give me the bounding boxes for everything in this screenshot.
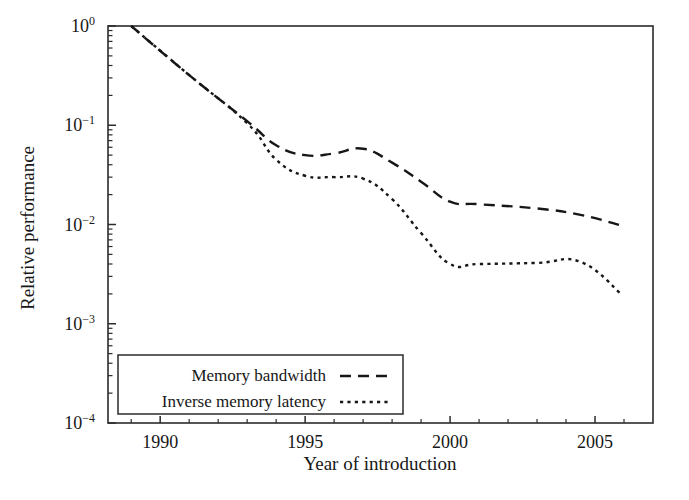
legend-label-2: Inverse memory latency [162, 392, 327, 411]
y-axis-tick-labels: 10010−110−210−310−4 [64, 14, 95, 433]
y-tick-label: 10−3 [64, 312, 95, 334]
data-series-group [131, 26, 621, 294]
y-tick-label: 10−2 [64, 213, 95, 235]
y-axis-title: Relative performance [17, 146, 38, 310]
y-tick-label: 10−1 [64, 113, 95, 135]
x-axis-title: Year of introduction [303, 453, 457, 474]
y-axis-ticks [108, 26, 116, 423]
x-axis-ticks [131, 416, 624, 423]
y-tick-label: 10−4 [64, 411, 95, 433]
series-line-2 [131, 26, 621, 294]
x-tick-label: 2005 [577, 432, 613, 452]
x-tick-label: 1990 [142, 432, 178, 452]
x-tick-label: 2000 [432, 432, 468, 452]
legend-label-1: Memory bandwidth [191, 366, 326, 385]
line-chart: 1990199520002005 10010−110−210−310−4 Yea… [0, 0, 689, 500]
chart-legend: Memory bandwidthInverse memory latency [118, 355, 403, 414]
y-tick-label: 100 [71, 14, 95, 36]
chart-figure: 1990199520002005 10010−110−210−310−4 Yea… [0, 0, 689, 500]
x-axis-tick-labels: 1990199520002005 [142, 432, 613, 452]
x-tick-label: 1995 [287, 432, 323, 452]
series-line-1 [131, 26, 621, 225]
